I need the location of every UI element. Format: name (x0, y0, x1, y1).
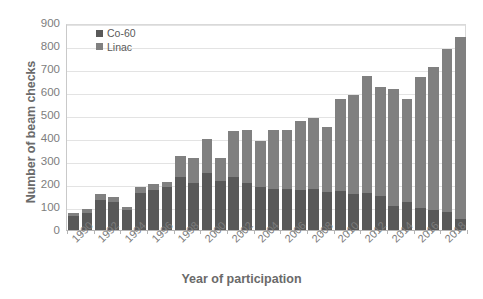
bar-stack[interactable] (295, 121, 306, 230)
x-tick-mark (174, 230, 175, 234)
y-tick-label: 400 (26, 133, 60, 145)
x-tick-mark (387, 230, 388, 234)
x-tick-mark (120, 230, 121, 234)
legend-label: Linac (107, 42, 132, 53)
y-tick-label: 200 (26, 179, 60, 191)
bar-stack[interactable] (228, 131, 239, 230)
bar-stack[interactable] (255, 141, 266, 230)
bar-segment-linac (428, 67, 439, 211)
x-tick-mark (227, 230, 228, 234)
bar-stack[interactable] (335, 99, 346, 230)
bar-segment-linac (255, 141, 266, 187)
legend-item[interactable]: Linac (96, 42, 136, 53)
legend-swatch-icon (96, 30, 103, 37)
bar-segment-linac (188, 158, 199, 183)
x-tick-mark (307, 230, 308, 234)
bar-stack[interactable] (415, 77, 426, 230)
bar-stack[interactable] (402, 99, 413, 230)
x-tick-mark (280, 230, 281, 234)
x-tick-mark (360, 230, 361, 234)
bar-stack[interactable] (148, 184, 159, 230)
bar-segment-linac (282, 130, 293, 189)
bar-segment-co60 (95, 200, 106, 230)
legend-item[interactable]: Co-60 (96, 28, 136, 39)
bar-stack[interactable] (282, 130, 293, 230)
y-tick-label: 900 (26, 18, 60, 30)
bar-segment-linac (295, 121, 306, 190)
x-tick-mark (414, 230, 415, 234)
bar-segment-linac (375, 87, 386, 195)
bar-stack[interactable] (375, 87, 386, 230)
bar-series-container (67, 25, 465, 230)
y-tick-label: 300 (26, 156, 60, 168)
bar-stack[interactable] (268, 130, 279, 230)
bar-stack[interactable] (428, 67, 439, 230)
bar-segment-linac (175, 156, 186, 177)
bar-segment-co60 (148, 190, 159, 230)
bar-segment-co60 (362, 193, 373, 230)
bar-segment-linac (308, 118, 319, 188)
bar-segment-co60 (202, 173, 213, 231)
bar-segment-linac (335, 99, 346, 191)
bar-segment-co60 (255, 187, 266, 230)
legend-swatch-icon (96, 43, 103, 50)
bar-stack[interactable] (95, 194, 106, 230)
bar-segment-linac (348, 95, 359, 194)
bar-stack[interactable] (455, 37, 466, 230)
bar-segment-co60 (228, 177, 239, 230)
bar-segment-linac (402, 99, 413, 203)
legend-label: Co-60 (107, 28, 136, 39)
bar-stack[interactable] (175, 156, 186, 230)
bar-stack[interactable] (442, 49, 453, 230)
x-tick-mark (147, 230, 148, 234)
bar-segment-linac (442, 49, 453, 211)
y-tick-label: 700 (26, 64, 60, 76)
bar-segment-co60 (335, 191, 346, 230)
bar-stack[interactable] (388, 89, 399, 230)
bar-segment-linac (228, 131, 239, 177)
bar-segment-linac (362, 76, 373, 193)
bar-segment-linac (202, 139, 213, 172)
bar-stack[interactable] (362, 76, 373, 230)
bar-segment-linac (215, 158, 226, 181)
y-tick-label: 500 (26, 110, 60, 122)
x-axis-title: Year of participation (0, 272, 483, 286)
x-tick-mark (254, 230, 255, 234)
x-tick-mark (94, 230, 95, 234)
bar-segment-linac (455, 37, 466, 219)
bar-stack[interactable] (308, 118, 319, 230)
bar-stack[interactable] (242, 130, 253, 230)
x-tick-mark (467, 230, 468, 234)
bar-segment-co60 (175, 177, 186, 230)
x-tick-mark (440, 230, 441, 234)
y-tick-label: 600 (26, 87, 60, 99)
x-tick-mark (334, 230, 335, 234)
y-tick-label: 0 (26, 225, 60, 237)
y-tick-label: 100 (26, 202, 60, 214)
chart-legend: Co-60Linac (96, 28, 136, 55)
bar-segment-linac (268, 130, 279, 189)
bar-stack[interactable] (348, 95, 359, 230)
bar-stack[interactable] (202, 139, 213, 230)
bar-stack[interactable] (322, 127, 333, 231)
plot-area (66, 24, 466, 231)
x-tick-mark (200, 230, 201, 234)
x-tick-mark (67, 230, 68, 234)
bar-segment-co60 (282, 189, 293, 230)
bar-segment-linac (242, 130, 253, 183)
y-tick-label: 800 (26, 41, 60, 53)
bar-chart: Number of beam checks 900800700600500400… (0, 0, 483, 299)
bar-segment-linac (415, 77, 426, 208)
bar-segment-linac (388, 89, 399, 206)
bar-segment-linac (322, 127, 333, 193)
bar-segment-co60 (308, 189, 319, 230)
